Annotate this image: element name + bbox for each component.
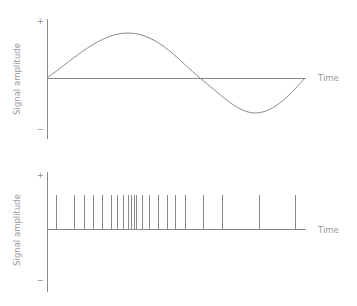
bottom-plus-tick: + — [37, 171, 44, 180]
spikes — [57, 195, 296, 229]
top-plus-tick: + — [37, 17, 44, 26]
top-x-label: Time — [317, 73, 339, 83]
continuous-signal-chart: + − Time Signal amplitude — [12, 17, 339, 139]
sine-curve — [47, 33, 305, 113]
bottom-minus-tick: − — [37, 276, 44, 285]
signal-figure: + − Time Signal amplitude + − Time Signa… — [0, 0, 357, 306]
bottom-y-label: Signal amplitude — [12, 194, 22, 266]
spike-train-chart: + − Time Signal amplitude — [12, 171, 339, 292]
top-y-label: Signal amplitude — [12, 43, 22, 115]
bottom-x-label: Time — [317, 225, 339, 235]
top-minus-tick: − — [37, 125, 44, 134]
